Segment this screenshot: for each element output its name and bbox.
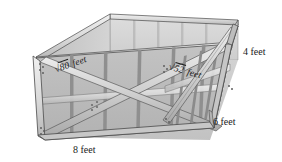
bolt	[91, 104, 93, 106]
bolt	[168, 121, 170, 123]
bolt	[96, 101, 98, 103]
label-depth: 6 feet	[213, 117, 236, 127]
bolt	[228, 85, 230, 87]
label-width: 8 feet	[73, 145, 96, 155]
label-height: 4 feet	[243, 47, 266, 57]
bolt	[40, 133, 42, 135]
bolt	[43, 130, 45, 132]
bolt	[39, 69, 41, 71]
bolt	[165, 118, 167, 120]
bolt	[39, 63, 41, 65]
bolt	[163, 65, 165, 67]
bolt	[96, 106, 98, 108]
bolt	[40, 127, 42, 129]
bolt	[91, 109, 93, 111]
bolt	[42, 72, 44, 74]
bolt	[163, 71, 165, 73]
crate-diagram	[0, 0, 282, 162]
radicand: 52	[173, 62, 187, 76]
bolt	[42, 66, 44, 68]
bolt	[231, 88, 233, 90]
figure-container: √80 feet √52 feet 4 feet 6 feet 8 feet	[0, 0, 282, 162]
